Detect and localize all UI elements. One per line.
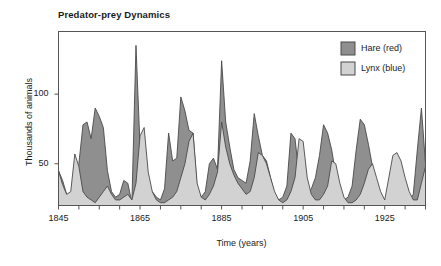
y-axis-label: Thousands of animals [24,42,34,202]
plot-canvas [0,0,441,266]
legend-item-label: Lynx (blue) [361,63,405,73]
chart-title: Predator-prey Dynamics [58,9,170,20]
y-tick-label: 50 [19,158,49,168]
y-tick-label: 100 [19,88,49,98]
x-tick-label: 1845 [39,213,79,223]
legend-item-label: Hare (red) [361,43,402,53]
chart-figure: Predator-prey Dynamics Thousands of anim… [0,0,441,266]
x-axis-label: Time (years) [58,238,425,248]
x-tick-label: 1925 [365,213,405,223]
x-tick-label: 1905 [283,213,323,223]
x-tick-label: 1865 [120,213,160,223]
x-tick-label: 1885 [202,213,242,223]
